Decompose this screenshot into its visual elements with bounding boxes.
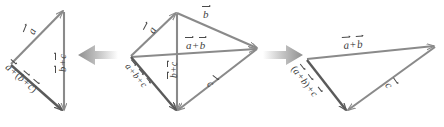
right-panel-geometry: [307, 46, 435, 110]
middle-vector-a-plus-b: [131, 49, 256, 57]
left-vector-resultant: [11, 65, 62, 110]
right-vector-c: [348, 47, 435, 110]
figure-geometry: [0, 0, 444, 127]
left-panel-geometry: [11, 11, 64, 110]
middle-panel-geometry: [131, 13, 257, 110]
connector-arrow-right: [263, 45, 303, 65]
right-vector-a-plus-b: [307, 46, 434, 59]
connector-arrow-left: [78, 45, 118, 65]
middle-vector-c: [178, 49, 257, 110]
vector-associativity-figure: a b+c a+(b+c) a b a+b b+c c a+b+c a+b (a…: [0, 0, 444, 127]
middle-vector-b: [177, 13, 257, 48]
middle-vector-resultant: [131, 57, 176, 110]
middle-vector-a: [131, 13, 176, 56]
left-vector-a: [11, 11, 63, 64]
right-vector-resultant: [307, 60, 346, 110]
